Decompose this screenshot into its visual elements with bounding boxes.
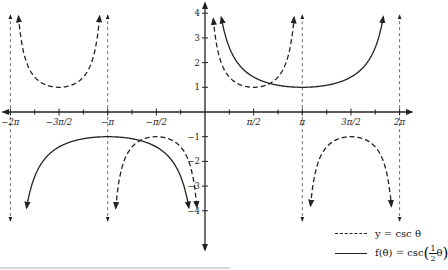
legend-label-f: f(θ) = csc(12θ) <box>375 244 448 263</box>
y-tick-label: 2 <box>195 58 200 68</box>
x-ticks: −2π−3π/2−π−π/2π/2π3π/22π <box>1 109 405 128</box>
y-tick-label: 3 <box>195 33 200 43</box>
x-tick-label: π <box>299 117 306 127</box>
legend: y = csc θ f(θ) = csc(12θ) <box>335 223 448 263</box>
y-tick-label: −1 <box>187 132 200 142</box>
x-tick-label: −2π <box>1 117 20 127</box>
x-tick-label: −π/2 <box>146 117 167 127</box>
legend-label-csc: y = csc θ <box>375 228 421 239</box>
bottom-rule <box>0 267 230 269</box>
solid-line-swatch <box>335 253 367 254</box>
y-tick-label: 4 <box>195 8 200 18</box>
y-tick-label: 1 <box>195 82 200 92</box>
y-tick-label: −3 <box>187 181 200 191</box>
csc-curve-branch <box>311 137 392 207</box>
x-tick-label: −3π/2 <box>46 117 72 127</box>
x-tick-label: 2π <box>393 117 405 127</box>
csc-curve-branch <box>19 16 100 87</box>
legend-entry-csc: y = csc θ <box>335 223 448 243</box>
x-tick-label: 3π/2 <box>341 117 360 127</box>
x-tick-label: π/2 <box>246 117 261 127</box>
legend-entry-f: f(θ) = csc(12θ) <box>335 243 448 263</box>
x-tick-label: −π <box>101 117 114 127</box>
dashed-line-swatch <box>335 233 367 234</box>
